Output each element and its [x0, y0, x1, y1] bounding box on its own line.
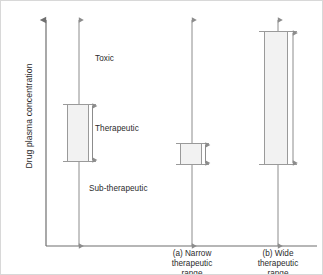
column-narrow	[176, 20, 209, 246]
caption-narrow-line1: (a) Narrow	[146, 249, 238, 259]
figure-panel: Drug plasma concentration Toxic Therapeu…	[0, 0, 323, 275]
y-axis-label: Drug plasma concentration	[24, 26, 34, 206]
column-wide	[259, 20, 297, 246]
caption-narrow-line3: range	[146, 269, 238, 275]
caption-wide-line2: therapeutic	[232, 259, 323, 269]
zone-label-toxic: Toxic	[95, 54, 114, 64]
reference-therapeutic-bar	[68, 105, 89, 162]
diagram-canvas	[1, 1, 323, 275]
caption-narrow-line2: therapeutic	[146, 259, 238, 269]
caption-wide-line1: (b) Wide	[232, 249, 323, 259]
narrow-therapeutic-bar	[181, 144, 202, 165]
caption-wide: (b) Wide therapeutic range	[232, 249, 323, 275]
zone-label-sub-therapeutic: Sub-therapeutic	[89, 184, 148, 194]
column-reference	[63, 20, 96, 246]
caption-narrow: (a) Narrow therapeutic range	[146, 249, 238, 275]
wide-therapeutic-bar	[265, 32, 288, 165]
zone-label-therapeutic: Therapeutic	[95, 124, 139, 134]
caption-wide-line3: range	[232, 269, 323, 275]
